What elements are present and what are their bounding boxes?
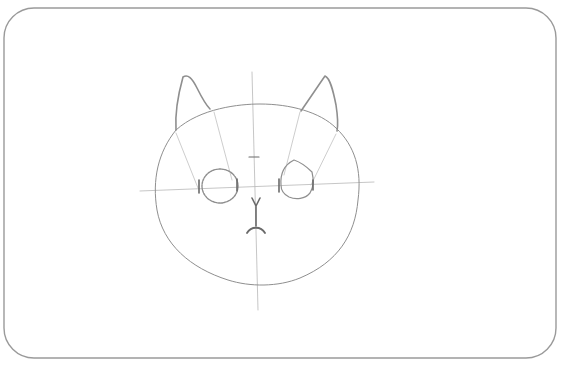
eye-tick-marks [199,179,313,193]
left-eye [202,169,238,203]
head-outline [155,104,359,285]
right-ear-guide [284,112,336,185]
right-ear-outline [301,76,338,131]
right-eye [281,160,313,199]
horizontal-guideline [140,182,374,191]
cat-sketch-drawing [0,0,562,366]
nose [252,198,260,226]
left-ear-outline [176,76,210,130]
rounded-frame [4,8,556,358]
vertical-guideline [252,72,258,310]
